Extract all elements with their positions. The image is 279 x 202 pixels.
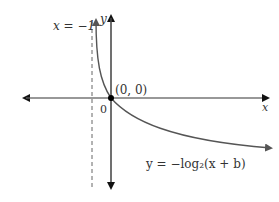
asymptote-label: x = −1	[53, 20, 95, 32]
log-graph-diagram: x = −1 y x (0, 0) 0 y = −log₂(x + b)	[0, 0, 279, 202]
x-axis-label: x	[262, 102, 268, 113]
point-label: (0, 0)	[115, 84, 147, 96]
origin-label: 0	[100, 104, 107, 115]
equation-label: y = −log₂(x + b)	[146, 158, 246, 170]
graph-canvas	[0, 0, 279, 202]
origin-point	[108, 95, 114, 101]
y-axis-label: y	[100, 13, 107, 25]
